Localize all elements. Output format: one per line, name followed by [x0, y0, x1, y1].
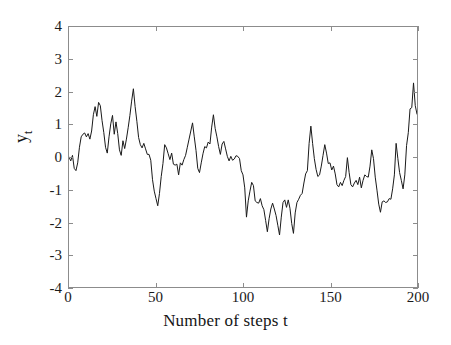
y-tick-mark	[68, 190, 73, 191]
y-tick-mark	[68, 223, 73, 224]
chart-figure: -4-3-2-101234 050100150200 Number of ste…	[0, 0, 451, 345]
y-axis-label: yt	[11, 131, 36, 143]
x-tick-mark-top	[156, 26, 157, 31]
x-tick-label: 200	[407, 290, 430, 305]
x-tick-mark	[418, 283, 419, 288]
x-axis-label: Number of steps t	[0, 311, 451, 331]
y-tick-mark-right	[413, 92, 418, 93]
y-tick-mark-right	[413, 157, 418, 158]
y-tick-label: 2	[55, 84, 63, 99]
x-tick-mark-top	[243, 26, 244, 31]
x-tick-mark	[68, 283, 69, 288]
y-axis-label-base: y	[11, 134, 31, 143]
y-tick-mark-right	[413, 255, 418, 256]
y-axis-label-subscript: t	[21, 131, 35, 134]
x-tick-mark	[331, 283, 332, 288]
y-tick-label: 0	[55, 150, 63, 165]
x-tick-mark-top	[68, 26, 69, 31]
y-tick-label: 3	[55, 51, 63, 66]
series-line-y-t	[69, 27, 417, 287]
y-tick-mark-right	[413, 223, 418, 224]
x-tick-mark-top	[418, 26, 419, 31]
x-tick-label: 100	[232, 290, 255, 305]
y-tick-mark	[68, 255, 73, 256]
plot-area	[68, 26, 418, 288]
x-tick-mark-top	[331, 26, 332, 31]
y-tick-label: -2	[50, 215, 63, 230]
x-tick-mark	[243, 283, 244, 288]
y-tick-label: -3	[50, 248, 63, 263]
y-tick-label: 1	[55, 117, 63, 132]
x-tick-mark	[156, 283, 157, 288]
y-tick-mark	[68, 59, 73, 60]
x-tick-label: 50	[148, 290, 163, 305]
y-tick-mark-right	[413, 59, 418, 60]
y-tick-label: 4	[55, 19, 63, 34]
y-tick-mark-right	[413, 124, 418, 125]
x-tick-label: 150	[319, 290, 342, 305]
x-tick-label: 0	[64, 290, 72, 305]
y-tick-label: -4	[50, 281, 63, 296]
y-tick-mark-right	[413, 190, 418, 191]
y-tick-mark	[68, 92, 73, 93]
y-tick-mark	[68, 157, 73, 158]
y-tick-mark	[68, 124, 73, 125]
y-tick-label: -1	[50, 182, 63, 197]
